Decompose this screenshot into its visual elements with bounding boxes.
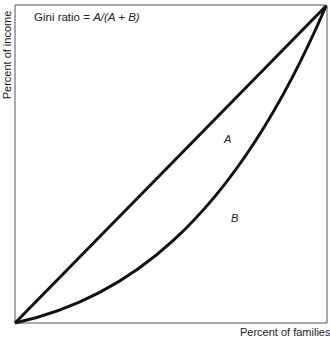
area-b-label: B: [231, 212, 238, 224]
x-axis-label: Percent of families: [240, 326, 330, 338]
equality-line: [15, 6, 326, 323]
area-a-label: A: [224, 133, 231, 145]
formula-expression: A/(A + B): [93, 11, 140, 23]
formula-prefix: Gini ratio =: [34, 11, 93, 23]
gini-formula: Gini ratio = A/(A + B): [34, 11, 140, 23]
